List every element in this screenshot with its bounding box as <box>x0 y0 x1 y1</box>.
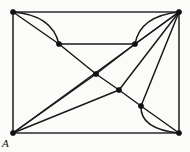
graph-edge <box>119 12 179 90</box>
graph-vertex <box>116 87 121 92</box>
graph-canvas: A <box>0 0 190 152</box>
graph-edge <box>13 74 96 133</box>
graph-edge <box>96 74 119 90</box>
graph-edge <box>13 90 119 133</box>
graph-edge <box>59 44 96 74</box>
vertex-label-a: A <box>1 137 9 149</box>
graph-vertex <box>138 103 143 108</box>
graph-vertex <box>93 71 98 76</box>
graph-vertex <box>176 9 181 14</box>
graph-vertex <box>10 130 15 135</box>
labels-layer: A <box>1 137 9 149</box>
graph-figure: A <box>0 0 190 152</box>
graph-vertex <box>132 41 137 46</box>
graph-vertex <box>56 41 61 46</box>
graph-vertex <box>176 130 181 135</box>
graph-edge <box>119 90 141 106</box>
graph-vertex <box>10 9 15 14</box>
